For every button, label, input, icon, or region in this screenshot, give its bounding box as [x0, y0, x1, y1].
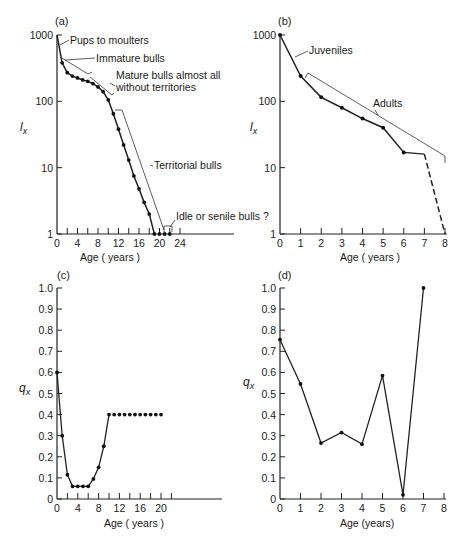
annotation-immature: Immature bulls — [96, 52, 165, 64]
svg-text:10: 10 — [264, 162, 276, 174]
svg-text:5: 5 — [380, 237, 386, 249]
svg-text:6: 6 — [401, 237, 407, 249]
svg-text:0: 0 — [54, 502, 60, 514]
figure: 110100100004812162024 (a) Pups to moulte… — [0, 0, 467, 546]
svg-text:0.2: 0.2 — [38, 451, 53, 463]
svg-text:0: 0 — [277, 502, 283, 514]
svg-text:0: 0 — [54, 237, 60, 249]
y-axis-label-c: qx — [19, 381, 31, 397]
svg-text:0.6: 0.6 — [38, 366, 53, 378]
svg-text:0.1: 0.1 — [38, 472, 53, 484]
annotation-mature-1: Mature bulls almost all — [116, 69, 220, 81]
svg-text:7: 7 — [421, 237, 427, 249]
svg-text:1: 1 — [47, 228, 53, 240]
svg-text:0: 0 — [277, 237, 283, 249]
panel-b: 1101001000012345678 — [253, 29, 448, 249]
svg-text:12: 12 — [113, 237, 125, 249]
panel-d-label: (d) — [278, 269, 291, 281]
panel-c-label: (c) — [57, 269, 70, 281]
svg-text:1: 1 — [298, 502, 304, 514]
svg-text:3: 3 — [339, 237, 345, 249]
y-axis-label-a: lx — [20, 120, 28, 136]
svg-text:8: 8 — [441, 502, 447, 514]
panel-c: 00.10.20.30.40.50.60.70.80.91.0048121620 — [38, 282, 222, 514]
svg-text:100: 100 — [258, 95, 276, 107]
svg-text:0.5: 0.5 — [261, 388, 276, 400]
annotation-idle: Idle or senile bulls ? — [176, 210, 269, 222]
svg-text:1.0: 1.0 — [261, 282, 276, 294]
annotation-juveniles: Juveniles — [309, 44, 353, 56]
svg-text:4: 4 — [359, 502, 365, 514]
x-axis-label-b: Age ( years ) — [340, 251, 400, 263]
svg-text:8: 8 — [96, 502, 102, 514]
svg-text:1000: 1000 — [253, 29, 277, 41]
svg-text:8: 8 — [95, 237, 101, 249]
panel-a-label: (a) — [55, 15, 68, 27]
svg-text:0.6: 0.6 — [261, 366, 276, 378]
svg-text:4: 4 — [75, 237, 81, 249]
svg-text:20: 20 — [155, 502, 167, 514]
svg-text:0.1: 0.1 — [261, 472, 276, 484]
x-axis-label-d: Age (years) — [340, 517, 394, 529]
svg-text:1000: 1000 — [30, 29, 54, 41]
svg-text:0.8: 0.8 — [261, 324, 276, 336]
svg-text:6: 6 — [400, 502, 406, 514]
svg-text:8: 8 — [442, 237, 448, 249]
y-axis-label-d: qx — [243, 375, 255, 391]
panel-b-label: (b) — [278, 15, 291, 27]
svg-text:0.7: 0.7 — [261, 345, 276, 357]
svg-text:100: 100 — [35, 95, 53, 107]
svg-text:0.2: 0.2 — [261, 451, 276, 463]
panel-d: 00.10.20.30.40.50.60.70.80.91.0012345678 — [261, 282, 447, 514]
svg-text:12: 12 — [114, 502, 126, 514]
svg-text:0.8: 0.8 — [38, 324, 53, 336]
svg-text:7: 7 — [421, 502, 427, 514]
annotation-pups: Pups to moulters — [70, 34, 149, 46]
svg-text:2: 2 — [318, 237, 324, 249]
svg-text:10: 10 — [41, 162, 53, 174]
svg-text:0.3: 0.3 — [38, 430, 53, 442]
svg-text:1: 1 — [270, 228, 276, 240]
svg-text:0.3: 0.3 — [261, 430, 276, 442]
svg-text:0.9: 0.9 — [261, 303, 276, 315]
svg-text:0.5: 0.5 — [38, 388, 53, 400]
svg-text:16: 16 — [134, 502, 146, 514]
svg-text:24: 24 — [174, 237, 186, 249]
svg-text:0: 0 — [270, 493, 276, 505]
svg-text:0: 0 — [47, 493, 53, 505]
svg-text:2: 2 — [318, 502, 324, 514]
annotation-adults: Adults — [373, 97, 402, 109]
svg-text:4: 4 — [75, 502, 81, 514]
svg-text:0.4: 0.4 — [261, 409, 276, 421]
y-axis-label-b: lx — [250, 120, 258, 136]
svg-text:20: 20 — [154, 237, 166, 249]
svg-text:0.7: 0.7 — [38, 345, 53, 357]
svg-text:5: 5 — [380, 502, 386, 514]
annotation-territorial: Territorial bulls — [154, 159, 222, 171]
annotation-mature-2: without territories — [115, 81, 196, 93]
x-axis-label-c: Age ( years ) — [104, 517, 164, 529]
svg-text:1: 1 — [298, 237, 304, 249]
svg-text:3: 3 — [339, 502, 345, 514]
svg-text:4: 4 — [360, 237, 366, 249]
svg-text:16: 16 — [133, 237, 145, 249]
x-axis-label-a: Age ( years ) — [80, 251, 140, 263]
svg-text:1.0: 1.0 — [38, 282, 53, 294]
svg-text:0.9: 0.9 — [38, 303, 53, 315]
svg-text:0.4: 0.4 — [38, 409, 53, 421]
